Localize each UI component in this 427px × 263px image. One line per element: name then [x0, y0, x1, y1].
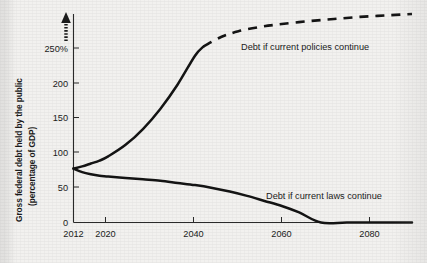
- y-axis-title-line1: Gross federal debt held by the public: [14, 78, 24, 222]
- annotation-current-policies: Debt if current policies continue: [241, 42, 369, 52]
- x-tick-label-2080: 2080: [359, 229, 379, 239]
- y-tick-label-50: 50: [58, 183, 68, 193]
- annotation-current-laws: Debt if current laws continue: [266, 191, 382, 201]
- y-tick-label-0: 0: [63, 218, 68, 228]
- x-tick-label-2012: 2012: [63, 229, 83, 239]
- y-tick-label-150: 150: [53, 113, 68, 123]
- x-tick-label-2060: 2060: [271, 229, 291, 239]
- debt-projection-chart: Gross federal debt held by the public (p…: [0, 0, 427, 263]
- x-tick-label-2040: 2040: [183, 229, 203, 239]
- y-tick-label-100: 100: [53, 148, 68, 158]
- y-tick-label-250: 250%: [45, 44, 69, 54]
- x-tick-label-2020: 2020: [95, 229, 115, 239]
- y-axis-title-line2: (percentage of GDP): [27, 127, 37, 206]
- y-tick-label-200: 200: [53, 79, 68, 89]
